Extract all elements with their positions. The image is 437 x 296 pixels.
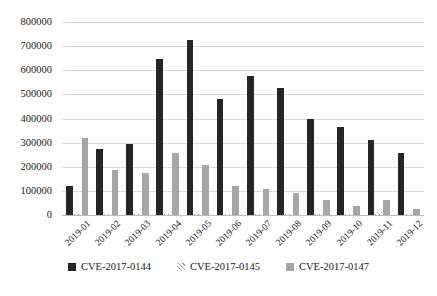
x-axis-tick-label: 2019-08: [275, 219, 304, 248]
bar-group: [397, 22, 421, 215]
legend-swatch-icon: [68, 263, 76, 271]
bar: [66, 186, 73, 215]
bar: [398, 153, 405, 215]
bar: [112, 170, 119, 215]
y-axis-tick-label: 700000: [21, 41, 53, 52]
bar-group: [156, 22, 180, 215]
bar: [156, 59, 163, 215]
bar: [293, 193, 300, 215]
x-axis-tick-label: 2019-02: [94, 219, 123, 248]
x-axis-tick-label: 2019-09: [305, 219, 334, 248]
y-axis-tick-label: 500000: [21, 89, 53, 100]
y-axis-tick-label: 100000: [21, 186, 53, 197]
bar-group: [307, 22, 331, 215]
y-axis-tick-label: 200000: [21, 162, 53, 173]
bar: [368, 140, 375, 215]
bar: [96, 149, 103, 215]
bars-layer: [62, 22, 424, 215]
x-axis-tick-label: 2019-03: [124, 219, 153, 248]
bar-group: [65, 22, 89, 215]
bar: [126, 144, 133, 215]
x-axis-tick-label: 2019-10: [335, 219, 364, 248]
y-axis-tick-label: 400000: [21, 113, 53, 124]
y-axis-tick-label: 800000: [21, 17, 53, 28]
x-axis-tick-label: 2019-07: [245, 219, 274, 248]
legend-item[interactable]: CVE-2017-0147: [286, 262, 369, 273]
legend-swatch-icon: [286, 263, 294, 271]
bar-group: [216, 22, 240, 215]
legend-label: CVE-2017-0144: [81, 262, 151, 273]
x-axis-tick-label: 2019-06: [215, 219, 244, 248]
y-axis: 0100000200000300000400000500000600000700…: [0, 22, 58, 215]
bar-group: [246, 22, 270, 215]
x-axis-tick-label: 2019-04: [154, 219, 183, 248]
bar-group: [276, 22, 300, 215]
bar-group: [186, 22, 210, 215]
bar: [307, 119, 314, 215]
bar: [202, 165, 209, 215]
legend-swatch-icon: [177, 263, 185, 271]
x-axis-tick-label: 2019-05: [184, 219, 213, 248]
bar: [232, 186, 239, 215]
bar: [277, 88, 284, 215]
y-axis-tick-label: 600000: [21, 65, 53, 76]
bar-group: [95, 22, 119, 215]
legend-item[interactable]: CVE-2017-0145: [177, 262, 260, 273]
bar: [82, 138, 89, 215]
x-axis-tick-label: 2019-01: [64, 219, 93, 248]
bar: [383, 200, 390, 215]
x-axis-tick-label: 2019-12: [396, 219, 425, 248]
bar-group: [337, 22, 361, 215]
x-axis-tick-label: 2019-11: [366, 219, 395, 248]
bar: [247, 76, 254, 215]
bar: [337, 127, 344, 215]
y-axis-tick-label: 300000: [21, 137, 53, 148]
legend-label: CVE-2017-0147: [299, 262, 369, 273]
x-axis: 2019-012019-022019-032019-042019-052019-…: [62, 215, 424, 263]
legend-label: CVE-2017-0145: [190, 262, 260, 273]
y-axis-tick-label: 0: [47, 210, 52, 221]
bar-group: [367, 22, 391, 215]
chart-legend: CVE-2017-0144CVE-2017-0145CVE-2017-0147: [0, 262, 437, 273]
bar-chart: 0100000200000300000400000500000600000700…: [0, 0, 437, 296]
bar-group: [126, 22, 150, 215]
bar: [323, 200, 330, 215]
bar: [187, 40, 194, 215]
legend-item[interactable]: CVE-2017-0144: [68, 262, 151, 273]
bar: [142, 173, 149, 215]
bar: [353, 206, 360, 215]
bar: [172, 153, 179, 215]
bar: [263, 189, 270, 215]
bar: [217, 99, 224, 215]
